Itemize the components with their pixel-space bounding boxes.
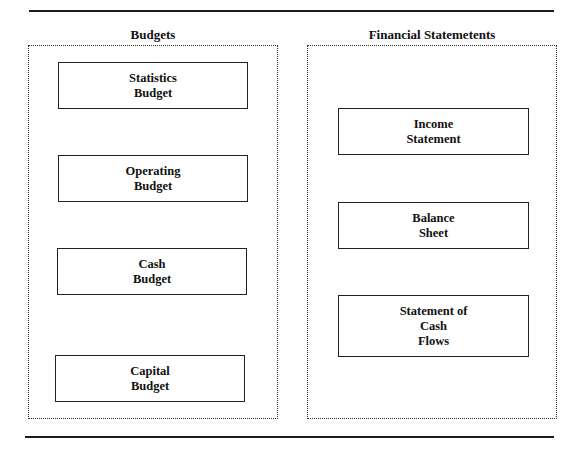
- statistics-budget-box: Statistics Budget: [58, 62, 248, 109]
- node-label-line: Statement: [406, 132, 460, 147]
- financial-statements-title: Financial Statemetents: [307, 27, 557, 43]
- node-label-line: Cash: [138, 257, 165, 272]
- node-label-line: Budget: [133, 272, 171, 287]
- node-label-line: Statement of: [400, 304, 468, 319]
- operating-budget-box: Operating Budget: [58, 155, 248, 202]
- node-label-line: Sheet: [419, 226, 448, 241]
- node-label-line: Operating: [126, 164, 181, 179]
- node-label-line: Balance: [412, 211, 454, 226]
- node-label-line: Flows: [418, 334, 449, 349]
- node-label-line: Income: [414, 117, 454, 132]
- cash-budget-box: Cash Budget: [57, 248, 247, 295]
- bottom-rule: [25, 436, 554, 438]
- income-statement-box: Income Statement: [338, 108, 529, 155]
- node-label-line: Cash: [420, 319, 447, 334]
- balance-sheet-box: Balance Sheet: [338, 202, 529, 249]
- node-label-line: Capital: [130, 364, 170, 379]
- top-rule: [29, 10, 554, 12]
- node-label-line: Budget: [134, 86, 172, 101]
- node-label-line: Budget: [131, 379, 169, 394]
- budgets-title: Budgets: [28, 27, 278, 43]
- statement-of-cash-flows-box: Statement of Cash Flows: [338, 295, 529, 357]
- node-label-line: Statistics: [129, 71, 177, 86]
- node-label-line: Budget: [134, 179, 172, 194]
- capital-budget-box: Capital Budget: [55, 355, 245, 402]
